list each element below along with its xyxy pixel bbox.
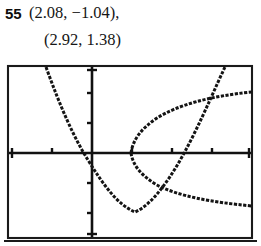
calculator-screen bbox=[0, 60, 261, 246]
answer-block: 55 (2.08, −1.04), (2.92, 1.38) bbox=[0, 0, 261, 64]
curve-sideways-parabola-lower bbox=[131, 153, 252, 206]
solution-line-1: (2.08, −1.04), bbox=[29, 5, 119, 22]
figure-baseline bbox=[4, 240, 257, 242]
graph-figure bbox=[0, 60, 261, 246]
problem-number: 55 bbox=[5, 6, 21, 21]
solution-line-2: (2.92, 1.38) bbox=[44, 32, 121, 49]
curve-sideways-parabola-upper bbox=[131, 92, 252, 153]
